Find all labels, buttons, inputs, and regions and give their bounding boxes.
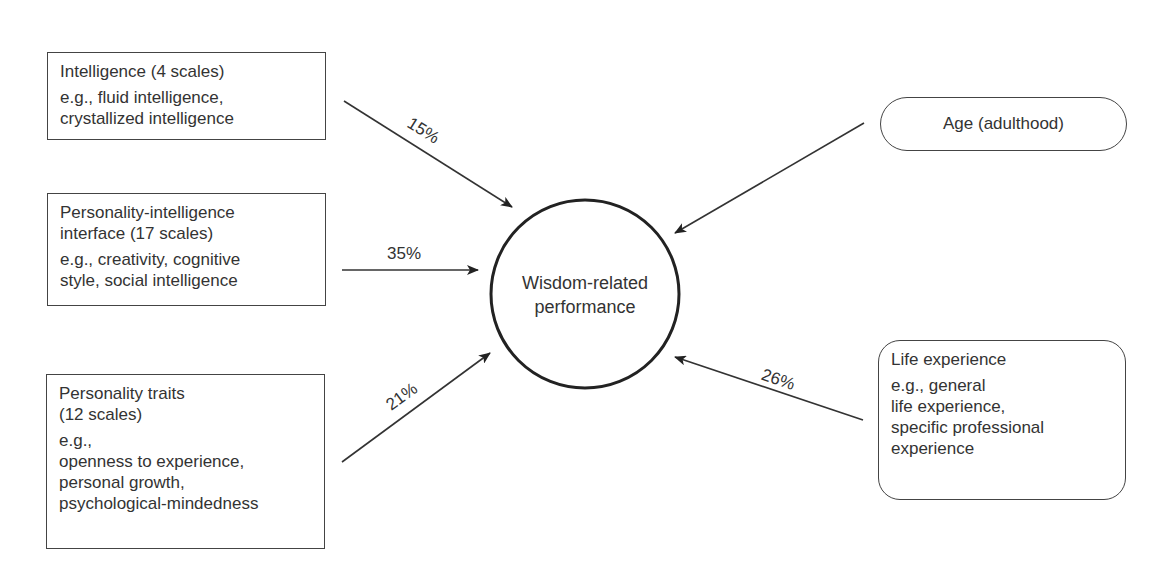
personality-intelligence-desc: e.g., creativity, cognitive style, socia… [60,249,313,291]
arrow-age [675,123,864,233]
personality-intelligence-box: Personality-intelligence interface (17 s… [47,193,326,306]
percent-personality-intelligence: 35% [387,244,421,264]
personality-traits-title: Personality traits (12 scales) [59,383,312,425]
age-title: Age (adulthood) [893,113,1114,134]
wisdom-label: Wisdom-related performance [495,271,675,319]
intelligence-desc: e.g., fluid intelligence, crystallized i… [60,87,313,129]
arrow-intelligence [344,101,512,207]
age-box: Age (adulthood) [880,97,1127,151]
personality-traits-box: Personality traits (12 scales) e.g., ope… [46,374,325,549]
life-experience-title: Life experience [891,349,1113,370]
personality-traits-desc: e.g., openness to experience, personal g… [59,430,312,514]
arrow-personality-traits [342,353,490,462]
intelligence-title: Intelligence (4 scales) [60,61,313,82]
intelligence-box: Intelligence (4 scales) e.g., fluid inte… [47,52,326,140]
personality-intelligence-title: Personality-intelligence interface (17 s… [60,202,313,244]
life-experience-box: Life experience e.g., general life exper… [878,340,1126,500]
life-experience-desc: e.g., general life experience, specific … [891,375,1113,459]
